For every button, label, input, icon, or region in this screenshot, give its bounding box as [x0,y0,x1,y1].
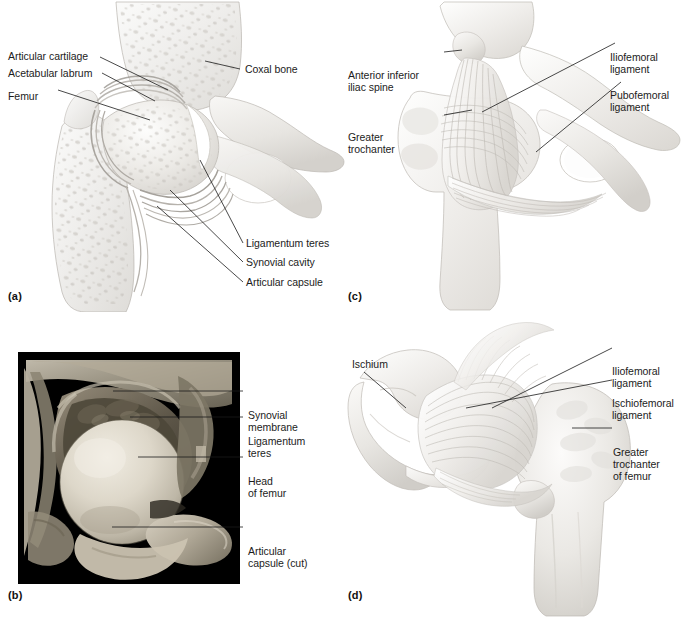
panel-letter-a: (a) [8,290,22,302]
panel-letter-d: (d) [348,589,363,601]
label-acetabular-labrum: Acetabular labrum [8,67,92,79]
anatomy-figure: Articular cartilage Acetabular labrum Fe… [0,0,697,618]
label-ischiofemoral-text: Ischiofemoral ligament [612,397,674,422]
panel-letter-c: (c) [348,290,362,302]
panel-b-dissection-photo: Synovial membrane Ligamentum teres Head … [0,318,345,618]
label-articular-cartilage: Articular cartilage [8,50,88,62]
panel-a-frontal-section: Articular cartilage Acetabular labrum Fe… [0,0,345,312]
dissection-photograph [18,352,240,584]
label-head-of-femur: Head of femur [248,450,286,524]
label-articular-capsule: Articular capsule [246,276,323,288]
label-femur: Femur [8,90,38,102]
label-pubofemoral-text: Pubofemoral ligament [610,89,669,114]
label-greater-trochanter-of-femur-text: Greater trochanter of femur [613,446,660,483]
dissection-photo-content [18,352,240,584]
label-coxal-bone: Coxal bone [245,63,298,75]
panel-letter-b: (b) [8,589,23,601]
label-aiis-line1: Anterior inferior iliac spine [348,69,419,94]
panel-c-anterior-ligaments: Anterior inferior iliac spine Greater tr… [340,0,697,312]
label-ischium: Ischium [352,358,388,370]
label-head-of-femur-text: Head of femur [248,475,286,500]
label-greater-trochanter-of-femur: Greater trochanter of femur [613,421,660,507]
label-greater-trochanter-text: Greater trochanter [348,131,395,156]
label-articular-capsule-cut-text: Articular capsule (cut) [248,545,307,570]
label-pubofemoral-ligament: Pubofemoral ligament [610,64,669,138]
label-ligamentum-teres: Ligamentum teres [246,237,329,249]
label-greater-trochanter: Greater trochanter [348,106,395,180]
label-synovial-cavity: Synovial cavity [246,256,315,268]
panel-d-posterior-ligaments: Ischium Iliofemoral ligament Ischiofemor… [340,318,697,618]
label-articular-capsule-cut: Articular capsule (cut) [248,520,307,594]
